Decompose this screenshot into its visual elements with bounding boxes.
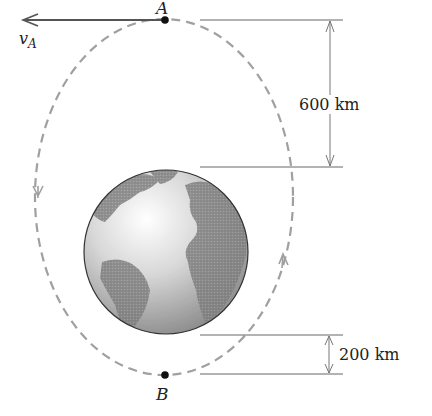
point-b bbox=[161, 371, 169, 379]
apogee-altitude-label: 600 km bbox=[299, 95, 360, 114]
apogee-dimension: 600 km bbox=[200, 20, 360, 167]
perigee-altitude-label: 200 km bbox=[339, 345, 400, 364]
point-a-label: A bbox=[154, 0, 168, 18]
earth-globe bbox=[84, 169, 250, 338]
velocity-label: vA bbox=[19, 29, 37, 51]
orbit-diagram: vA A B 600 km 200 km bbox=[0, 0, 432, 416]
point-b-label: B bbox=[155, 384, 169, 404]
perigee-dimension: 200 km bbox=[200, 335, 400, 374]
